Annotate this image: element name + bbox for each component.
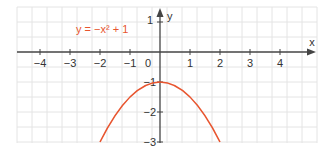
y-tick-label: −3 bbox=[143, 136, 156, 148]
y-tick-label: 1 bbox=[147, 14, 153, 26]
y-axis-label: y bbox=[167, 10, 173, 22]
x-tick-label: 3 bbox=[247, 57, 253, 69]
y-tick-label: −2 bbox=[143, 106, 156, 118]
x-tick-label: −1 bbox=[124, 57, 137, 69]
chart: −4 −3 −2 −1 1 2 3 4 0 x 1 −1 −2 −3 y y =… bbox=[0, 0, 326, 154]
x-tick-label: −4 bbox=[34, 57, 47, 69]
x-tick-label: 2 bbox=[217, 57, 223, 69]
x-tick-label: −3 bbox=[64, 57, 77, 69]
function-label: y = −x² + 1 bbox=[76, 23, 128, 35]
x-axis-arrow-icon bbox=[307, 49, 316, 56]
x-tick-label: 1 bbox=[187, 57, 193, 69]
x-tick-label: 4 bbox=[277, 57, 283, 69]
x-axis-label: x bbox=[309, 36, 315, 48]
origin-label: 0 bbox=[145, 57, 151, 69]
x-tick-label: −2 bbox=[94, 57, 107, 69]
y-axis-arrow-icon bbox=[157, 8, 164, 17]
grid bbox=[17, 7, 317, 143]
